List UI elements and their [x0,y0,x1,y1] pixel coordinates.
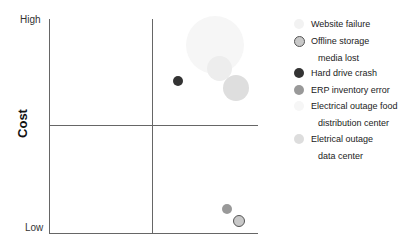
legend-label: Offline storage [311,35,369,47]
legend-swatch-hard-drive [294,68,304,78]
legend-label: media lost [318,52,359,64]
legend-swatch-data-center [294,134,304,144]
legend-label: data center [318,150,363,162]
quadrant-divider-vertical [152,19,153,234]
legend-swatch-erp [294,85,304,95]
legend-label: Eletrical outage [311,133,373,145]
bubble-hard-drive-crash [173,76,183,86]
legend-label: Electrical outage food [311,100,398,112]
x-axis [49,233,258,234]
y-tick-high: High [20,14,41,25]
legend-label: ERP inventory error [311,84,390,96]
y-tick-low: Low [25,222,43,233]
legend-label: Website failure [311,18,370,30]
bubble-electrical-outage-data-center [223,75,249,101]
legend-label: Hard drive crash [311,67,377,79]
y-axis [49,19,50,234]
legend-swatch-offline-storage [294,36,305,47]
legend-label: distribution center [318,117,389,129]
legend-swatch-website-failure [294,19,304,29]
bubble-offline-storage [233,215,245,227]
quadrant-divider-horizontal [49,125,258,126]
bubble-erp-inventory-error [222,204,232,214]
legend-swatch-food-center [294,101,304,111]
y-axis-label: Cost [15,109,30,138]
